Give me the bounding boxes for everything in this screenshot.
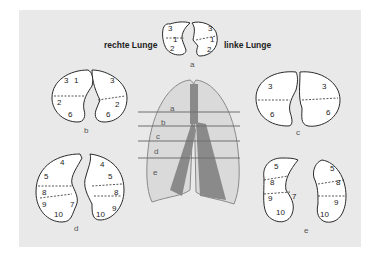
seg-e-l-9: 9 [334,198,338,207]
center-lung-diagram [138,80,240,204]
section-d-lungs [36,154,124,222]
seg-d-l-8: 8 [114,188,118,197]
right-lung-label: rechte Lunge [104,40,157,50]
section-label-c: c [296,128,300,137]
section-label-e: e [304,226,308,235]
seg-b-r-3: 3 [64,76,68,85]
seg-d-r-4: 4 [60,158,64,167]
seg-d-l-10: 10 [96,210,105,219]
seg-d-r-9: 9 [42,200,46,209]
seg-e-r-7: 7 [292,192,296,201]
level-label-c: c [156,132,160,141]
seg-b-l-2: 2 [115,100,119,109]
section-label-b: b [84,126,88,135]
seg-d-l-5: 5 [108,172,112,181]
seg-d-r-10: 10 [54,210,63,219]
section-label-d: d [74,224,78,233]
level-label-e: e [153,168,157,177]
seg-d-r-7: 7 [70,200,74,209]
seg-a-l-1: 1 [210,35,214,44]
seg-e-r-8: 8 [270,178,274,187]
seg-e-l-8: 8 [336,178,340,187]
lung-sections-figure [0,0,379,259]
seg-e-r-5: 5 [274,162,278,171]
seg-b-l-3: 3 [110,76,114,85]
seg-a-r-1: 1 [173,35,177,44]
seg-b-r-6: 6 [68,110,72,119]
section-c-lungs [256,72,340,127]
level-label-b: b [161,118,165,127]
seg-d-r-8: 8 [42,188,46,197]
left-lung-label: linke Lunge [224,40,271,50]
seg-b-l-6: 6 [106,110,110,119]
seg-c-l-6: 6 [326,108,330,117]
seg-a-l-3: 3 [208,24,212,33]
level-label-a: a [170,104,174,113]
level-label-d: d [154,147,158,156]
seg-a-l-2: 2 [207,45,211,54]
seg-c-r-3: 3 [268,82,272,91]
seg-c-l-3: 3 [322,82,326,91]
seg-d-l-4: 4 [100,160,104,169]
seg-b-r-1: 1 [74,76,78,85]
seg-d-r-5: 5 [44,172,48,181]
seg-c-r-6: 6 [270,110,274,119]
seg-b-r-2: 2 [57,98,61,107]
seg-d-l-9: 9 [112,204,116,213]
seg-e-r-9: 9 [268,194,272,203]
seg-a-r-2: 2 [170,44,174,53]
seg-e-l-10: 10 [320,210,329,219]
seg-e-l-5: 5 [330,164,334,173]
seg-a-r-3: 3 [168,24,172,33]
section-label-a: a [190,60,194,69]
seg-e-r-10: 10 [276,208,285,217]
